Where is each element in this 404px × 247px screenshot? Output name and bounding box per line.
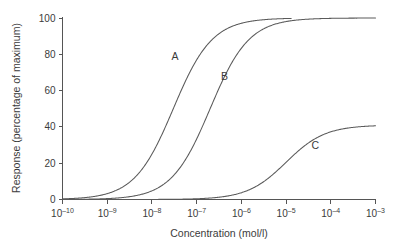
x-tick-label: 10–9	[98, 207, 117, 219]
x-axis-ticks: 10–1010–910–810–710–610–510–410–3	[51, 200, 385, 219]
x-tick-label: 10–7	[187, 207, 206, 219]
y-tick-label: 100	[39, 13, 56, 24]
x-tick-label: 10–5	[277, 207, 296, 219]
curve-label-b: B	[221, 70, 228, 82]
y-axis-title: Response (percentage of maximum)	[10, 23, 22, 193]
y-tick-label: 0	[50, 194, 56, 205]
y-tick-label: 20	[44, 158, 56, 169]
y-tick-label: 80	[44, 49, 56, 60]
x-tick-label: 10–10	[51, 207, 74, 219]
x-tick-label: 10–4	[321, 207, 340, 219]
curve-label-a: A	[172, 50, 179, 62]
y-axis-ticks: 020406080100	[39, 13, 63, 206]
y-tick-label: 60	[44, 85, 56, 96]
axes-group	[63, 17, 376, 200]
x-tick-label: 10–3	[366, 207, 385, 219]
y-tick-label: 40	[44, 121, 56, 132]
x-axis-title: Concentration (mol/l)	[170, 227, 267, 239]
dose-response-chart: 020406080100 10–1010–910–810–710–610–510…	[0, 0, 404, 247]
curve-label-c: C	[311, 139, 319, 151]
curves-group	[63, 18, 376, 199]
x-tick-label: 10–6	[232, 207, 251, 219]
x-tick-label: 10–8	[142, 207, 161, 219]
curve-c	[63, 126, 376, 200]
chart-canvas: 020406080100 10–1010–910–810–710–610–510…	[0, 0, 404, 247]
curve-b	[63, 18, 376, 199]
